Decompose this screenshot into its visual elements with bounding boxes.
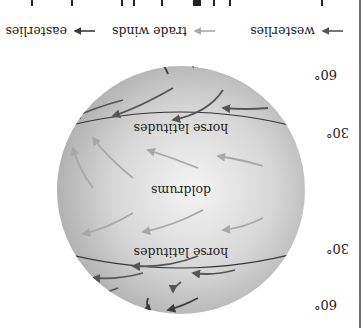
diagram-canvas: 60° 30° 30° 60° horse latitudes doldrums… [0,0,363,328]
westerly-arrow [223,108,268,109]
latitude-label-s60: 60° [314,67,337,82]
westerly-arrow [78,288,118,300]
latitude-label-n30: 30° [326,241,349,256]
legend: westerlies trade winds easterlies [6,24,343,39]
legend-easterlies-label: easterlies [6,24,67,39]
zone-label-north-horse-latitudes: horse latitudes [134,245,229,260]
latitude-label-s30: 30° [326,125,349,140]
legend-trade-winds-label: trade winds [112,24,187,39]
zone-label-south-horse-latitudes: horse latitudes [134,121,229,136]
zone-label-doldrums: doldrums [151,183,211,198]
cropped-title-fragment [31,0,323,6]
global-wind-diagram: 60° 30° 30° 60° horse latitudes doldrums… [0,0,363,328]
latitude-label-n60: 60° [314,297,337,312]
legend-westerlies-label: westerlies [250,24,315,39]
